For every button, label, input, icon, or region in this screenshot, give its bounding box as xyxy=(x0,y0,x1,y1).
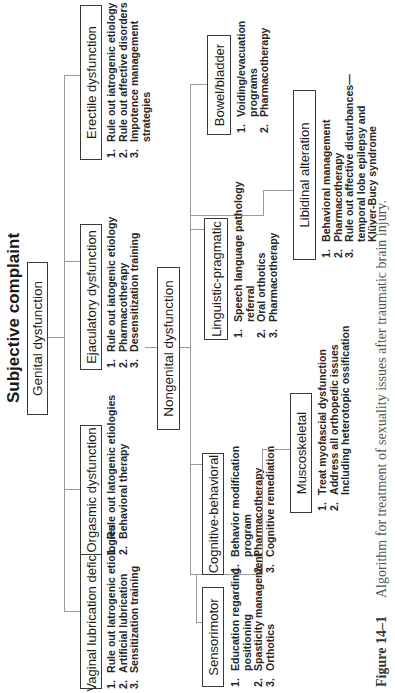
ejaculatory-dysfunction-box: Ejaculatory dysfunction xyxy=(80,224,102,370)
caption-text: Algorithm for treatment of sexuality iss… xyxy=(374,200,389,598)
bowel-bladder-list: 1.Voiding/evacuation programs 2.Pharmaco… xyxy=(236,21,271,133)
orgasmic-connector xyxy=(64,489,80,490)
libidinal-alteration-list: 1.Behavioral management 2.Pharmacotherap… xyxy=(321,74,379,258)
ejaculatory-dysfunction-list: 1.Rule out iatogenic etiology 2.Pharmaco… xyxy=(106,217,141,368)
sensorimotor-box: Sensorimotor xyxy=(202,587,224,687)
list-item: 3.Sensitization training xyxy=(129,525,141,689)
bowel-connector xyxy=(190,84,207,85)
cognitive-behavioral-list: 1.Behavior modification program 2.Pharma… xyxy=(230,446,276,573)
diagram-title: Subjective complaint xyxy=(4,243,24,403)
list-item: strategies xyxy=(141,2,153,158)
erectile-connector xyxy=(64,75,80,76)
ejaculatory-connector xyxy=(64,261,80,262)
list-item: 3.Cognitive remediation xyxy=(265,446,277,573)
list-item: 3.Desensitization training xyxy=(129,217,141,368)
genital-bus-connector xyxy=(64,76,65,612)
sensorimotor-connector xyxy=(196,575,197,623)
nongenital-dysfunction-box: Nongenital dysfunction xyxy=(157,267,180,430)
linguistic-pragmatic-list: 1.Speech language pathology referral 2.O… xyxy=(233,181,279,338)
figure-caption: Figure 14–1Algorithm for treatment of se… xyxy=(374,200,390,687)
muscoskeletal-connector xyxy=(262,450,263,575)
orgasmic-dysfunction-list: 1.Rule out latogenic etiologies 2.Behavi… xyxy=(106,395,129,555)
cognitive-behavioral-box: Cognitive-behavioral xyxy=(202,453,224,575)
erectile-dysfunction-box: Erectile dysfunction xyxy=(80,5,102,160)
list-item: Including heterotopic ossification xyxy=(340,325,352,511)
bowel-bladder-box: Bowel/bladder xyxy=(207,35,231,135)
orgasmic-dysfunction-box: Orgasmic dysfunction xyxy=(80,425,102,555)
vaginal-lubrication-deficit-box: Vaginal lubrication deficit xyxy=(80,551,102,689)
figure-number: Figure 14–1 xyxy=(374,616,389,687)
list-item: 2.Pharmacotherapy xyxy=(259,21,271,133)
muscoskeletal-drop xyxy=(262,449,290,450)
list-item: 2.Behavioral therapy xyxy=(118,395,130,555)
linguistic-connector xyxy=(190,229,204,230)
muscoskeletal-list: 1.Treat myofascial dysfunction 2.Address… xyxy=(317,325,352,511)
libidinal-connector xyxy=(263,191,264,216)
erectile-dysfunction-list: 1.Rule out iatrogenic etiology 2.Rule ou… xyxy=(106,2,152,158)
nongenital-stem-connector xyxy=(180,347,190,348)
genital-dysfunction-box: Genital dysfunction xyxy=(27,262,48,415)
genital-stem-connector xyxy=(48,337,64,338)
libidinal-alteration-box: Libidinal alteration xyxy=(293,90,316,260)
nongenital-bus-connector xyxy=(190,85,191,575)
vaginal-connector xyxy=(64,611,80,612)
rotated-diagram-canvas: Subjective complaint Genital dysfunction… xyxy=(0,0,395,693)
linguistic-pragmatic-box: Linguistic-pragmatic xyxy=(204,218,228,340)
muscoskeletal-box: Muscoskeletal xyxy=(290,393,312,513)
genital-to-nongenital-connector xyxy=(145,347,157,348)
list-item: 3.Pharmacotherapy xyxy=(268,181,280,338)
cognitive-connector xyxy=(190,464,202,465)
libidinal-drop xyxy=(263,190,293,191)
